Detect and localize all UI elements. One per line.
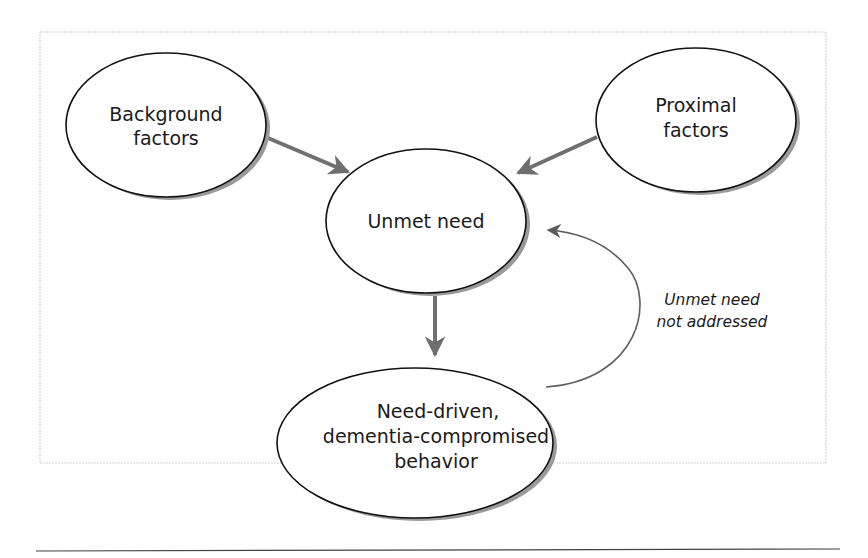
svg-text:Proximal: Proximal (655, 94, 737, 116)
node-proximal-factors: Proximal factors (596, 48, 800, 195)
node-label-line: factors (663, 119, 729, 141)
svg-text:behavior: behavior (394, 450, 478, 472)
node-label-line: factors (133, 127, 199, 149)
svg-text:not addressed: not addressed (657, 313, 768, 331)
diagram-canvas: Background factors Proximal factors Unme… (0, 0, 868, 558)
svg-text:factors: factors (133, 127, 199, 149)
svg-text:dementia-compromised: dementia-compromised (323, 425, 549, 447)
node-label-line: behavior (394, 450, 478, 472)
node-label-line: Background (109, 103, 222, 125)
feedback-label-line: not addressed (657, 313, 768, 331)
svg-text:Unmet need: Unmet need (367, 210, 484, 232)
svg-text:factors: factors (663, 119, 729, 141)
node-background-factors: Background factors (66, 53, 270, 200)
arrow-proximal-to-unmet (518, 137, 597, 173)
feedback-label-line: Unmet need (664, 291, 760, 309)
bottom-rule (36, 549, 840, 551)
svg-text:Need-driven,: Need-driven, (377, 400, 500, 422)
node-unmet-need: Unmet need (326, 149, 530, 296)
svg-text:Unmet need: Unmet need (664, 291, 760, 309)
node-label-line: Need-driven, (377, 400, 500, 422)
feedback-label: Unmet need not addressed (657, 291, 768, 331)
svg-text:Background: Background (109, 103, 222, 125)
arrow-feedback-behavior-to-unmet (546, 230, 640, 387)
node-label-line: dementia-compromised (323, 425, 549, 447)
node-need-driven-behavior: Need-driven, dementia-compromised behavi… (277, 368, 557, 521)
node-label-line: Proximal (655, 94, 737, 116)
arrow-background-to-unmet (268, 138, 348, 172)
node-label-line: Unmet need (367, 210, 484, 232)
